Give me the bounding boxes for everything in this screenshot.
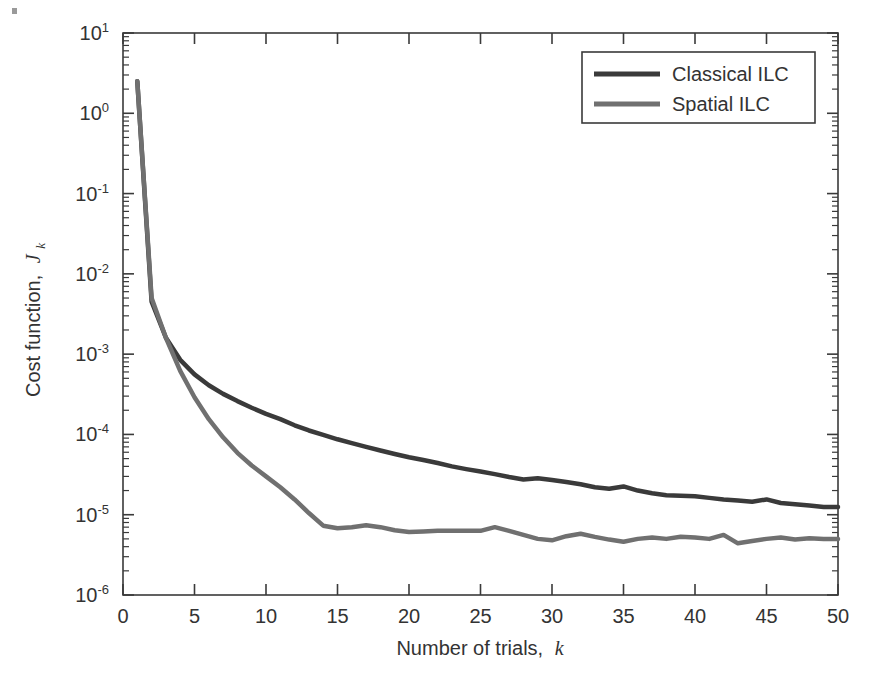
x-tick-label: 20	[398, 605, 420, 627]
x-tick-label: 15	[326, 605, 348, 627]
x-tick-label: 35	[612, 605, 634, 627]
y-axis-title-text: Cost function,	[22, 275, 44, 397]
x-tick-label: 10	[255, 605, 277, 627]
x-axis-title-text: Number of trials,	[396, 637, 543, 659]
chart-legend: Classical ILCSpatial ILC	[582, 52, 815, 123]
x-axis-title-symbol: k	[555, 637, 565, 659]
x-axis-title: Number of trials, k	[396, 637, 564, 659]
x-tick-label: 30	[541, 605, 563, 627]
legend-label-classical-ilc: Classical ILC	[672, 63, 789, 85]
x-tick-label: 45	[755, 605, 777, 627]
x-tick-label: 40	[684, 605, 706, 627]
scan-artifact-mark	[12, 8, 17, 14]
y-axis-title-symbol: J	[22, 253, 44, 263]
x-tick-label: 50	[827, 605, 849, 627]
figure-container: 10-610-510-410-310-210-1100101 051015202…	[0, 0, 879, 684]
svg-text:Number of trials, k: Number of trials, k	[396, 637, 564, 659]
cost-function-convergence-chart: 10-610-510-410-310-210-1100101 051015202…	[0, 0, 879, 684]
legend-label-spatial-ilc: Spatial ILC	[672, 93, 770, 115]
x-tick-label: 25	[469, 605, 491, 627]
y-axis-title-subscript: k	[33, 243, 48, 249]
x-tick-label: 5	[189, 605, 200, 627]
x-tick-label: 0	[117, 605, 128, 627]
